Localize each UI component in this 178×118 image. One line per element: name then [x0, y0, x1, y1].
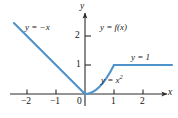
annotation-parabola-base: y = x [101, 75, 120, 85]
x-tick-label--2: −2 [21, 97, 31, 107]
y-tick-label-2: 2 [75, 31, 80, 41]
annotation-parabola-exponent: 2 [120, 73, 123, 80]
annotation-constant-branch: y = 1 [131, 53, 150, 62]
y-axis-ticks [85, 36, 91, 65]
y-tick-label-1: 1 [76, 60, 81, 70]
y-axis-label: y [80, 2, 84, 12]
x-tick-label--1: −1 [50, 97, 60, 107]
x-tick-label-1: 1 [111, 97, 116, 107]
x-tick-label-0: 0 [77, 97, 82, 107]
function-graph-figure: y x 2 1 −2 −1 0 1 2 y = −x y = f(x) y = … [0, 0, 178, 118]
annotation-linear-branch: y = −x [25, 23, 50, 32]
x-tick-label-2: 2 [140, 97, 145, 107]
annotation-function-name: y = f(x) [100, 23, 127, 32]
annotation-parabola-branch: y = x2 [101, 74, 123, 85]
x-axis-label: x [168, 88, 172, 98]
